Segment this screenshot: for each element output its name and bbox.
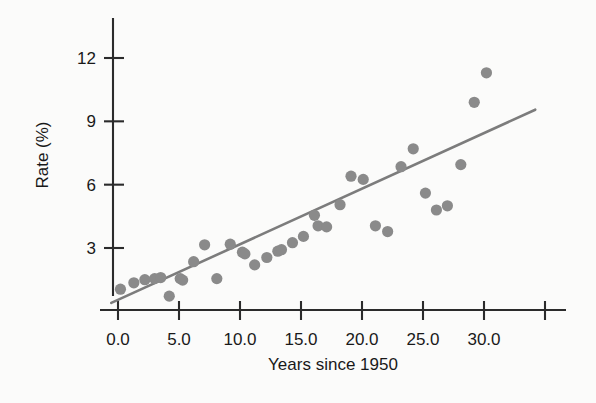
y-tick-label-group: 36912 — [77, 49, 96, 258]
data-point — [321, 221, 332, 232]
y-axis-title: Rate (%) — [33, 121, 52, 188]
data-point — [225, 239, 236, 250]
data-point — [309, 210, 320, 221]
y-tick-label-9: 9 — [87, 112, 96, 131]
x-tick-label-group: 0.05.010.015.020.025.030.0 — [106, 330, 500, 349]
scatter-plot-figure: 36912 0.05.010.015.020.025.030.0 Years s… — [0, 0, 596, 403]
chart-canvas: 36912 0.05.010.015.020.025.030.0 Years s… — [0, 0, 596, 403]
x-tick-label-0: 0.0 — [106, 330, 130, 349]
x-tick-label-15: 15.0 — [284, 330, 317, 349]
data-point — [481, 67, 492, 78]
x-axis-group: 0.05.010.015.020.025.030.0 — [100, 301, 566, 349]
data-point — [177, 274, 188, 285]
data-point — [115, 284, 126, 295]
x-tick-label-20: 20.0 — [345, 330, 378, 349]
data-point — [211, 273, 222, 284]
data-point — [420, 188, 431, 199]
data-point — [431, 204, 442, 215]
data-point-group — [115, 67, 492, 302]
data-point — [469, 97, 480, 108]
data-point — [345, 171, 356, 182]
y-tick-label-12: 12 — [77, 49, 96, 68]
regression-line — [111, 110, 535, 303]
data-point — [155, 272, 166, 283]
y-tick-label-6: 6 — [87, 176, 96, 195]
data-point — [261, 252, 272, 263]
data-point — [164, 291, 175, 302]
data-point — [442, 200, 453, 211]
data-point — [382, 226, 393, 237]
data-point — [139, 274, 150, 285]
y-axis-group: 36912 — [77, 18, 124, 296]
data-point — [334, 199, 345, 210]
x-tick-label-5: 5.0 — [167, 330, 191, 349]
data-point — [408, 143, 419, 154]
data-point — [370, 220, 381, 231]
data-point — [298, 231, 309, 242]
x-tick-label-10: 10.0 — [223, 330, 256, 349]
data-point — [455, 159, 466, 170]
x-tick-label-25: 25.0 — [406, 330, 439, 349]
data-point — [128, 277, 139, 288]
data-point — [239, 248, 250, 259]
x-axis-title: Years since 1950 — [268, 355, 398, 374]
data-point — [199, 239, 210, 250]
data-point — [287, 237, 298, 248]
data-point — [395, 161, 406, 172]
data-point — [358, 174, 369, 185]
data-point — [188, 256, 199, 267]
x-tick-label-30: 30.0 — [467, 330, 500, 349]
data-point — [249, 259, 260, 270]
y-tick-label-3: 3 — [87, 239, 96, 258]
data-point — [276, 244, 287, 255]
